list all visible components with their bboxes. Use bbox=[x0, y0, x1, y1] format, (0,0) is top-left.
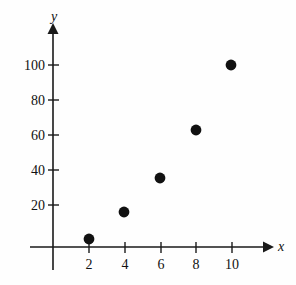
y-tick-label: 20 bbox=[31, 198, 45, 213]
y-tick-label: 100 bbox=[24, 58, 45, 73]
data-point bbox=[119, 207, 130, 218]
y-tick-label: 80 bbox=[31, 93, 45, 108]
x-axis-arrow-icon bbox=[263, 242, 274, 253]
data-point bbox=[191, 125, 202, 136]
x-tick-label: 10 bbox=[225, 257, 239, 272]
scatter-plot-figure: 100 80 60 40 20 2 4 6 8 10 y x bbox=[0, 0, 296, 285]
y-axis-label: y bbox=[49, 9, 58, 24]
data-point bbox=[84, 234, 95, 245]
x-tick-label: 8 bbox=[193, 257, 200, 272]
x-axis-label: x bbox=[277, 239, 285, 254]
y-tick-label: 60 bbox=[31, 128, 45, 143]
y-tick-label: 40 bbox=[31, 163, 45, 178]
y-axis-arrow-icon bbox=[48, 23, 59, 34]
plot-canvas: 100 80 60 40 20 2 4 6 8 10 y x bbox=[0, 0, 296, 285]
x-tick-label: 6 bbox=[158, 257, 165, 272]
x-tick-label: 4 bbox=[122, 257, 129, 272]
data-point bbox=[155, 173, 166, 184]
x-tick-label: 2 bbox=[86, 257, 93, 272]
data-point bbox=[226, 60, 237, 71]
